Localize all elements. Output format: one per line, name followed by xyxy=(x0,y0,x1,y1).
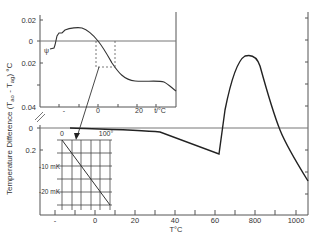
upper-inset-xtick-label: 0 xyxy=(96,107,100,114)
upper-inset-ytick-label: 0 xyxy=(29,37,33,46)
lower-inset-xtick-label: 0 xyxy=(60,130,64,137)
lower-inset-grid xyxy=(57,140,112,210)
upper-inset-ytick-label: 0.04 xyxy=(21,103,36,112)
dta-figure: Temperature Difference (Tao - Tag) °C 0.… xyxy=(0,0,324,240)
upper-inset-annotation: ψ xyxy=(44,47,49,55)
upper-inset-curve xyxy=(50,28,176,91)
main-xtick-label: 1000 xyxy=(288,216,305,225)
lower-inset-ytick-label: -10 mK xyxy=(39,163,61,170)
main-xtick-label: 20 xyxy=(131,216,139,225)
main-xtick-label: - xyxy=(54,216,57,225)
main-xtick-label: 40 xyxy=(171,216,179,225)
main-xtick-label: 60 xyxy=(211,216,219,225)
y-axis-label: Temperature Difference (Tao - Tag) °C xyxy=(5,62,15,195)
main-curve xyxy=(70,55,308,181)
main-plot: 0 0.2 - 0 20 40 60 800 1000 T°C xyxy=(26,12,308,234)
lower-inset-ytick-label: -20 mK xyxy=(39,188,61,195)
lower-inset-xtick-label: 100° xyxy=(99,130,114,137)
upper-inset-ytick-label: 0.02 xyxy=(21,59,36,68)
upper-inset-xtick-label: 20 xyxy=(135,107,143,114)
arrow-head-icon xyxy=(74,133,80,140)
upper-inset-xtick-label: - xyxy=(63,107,66,114)
lower-inset: 0 100° -10 mK -20 mK xyxy=(39,130,113,210)
main-ytick-label: 0 xyxy=(29,124,33,133)
axis-break-mark xyxy=(35,112,43,120)
upper-inset-xlabel: t/°C xyxy=(154,107,166,114)
zoom-connector-line xyxy=(77,67,99,137)
main-xtick-label: 800 xyxy=(249,216,262,225)
main-xticks xyxy=(55,210,296,215)
main-xtick-label: 0 xyxy=(93,216,97,225)
lower-inset-curve xyxy=(62,140,110,205)
axis-break-mark xyxy=(37,114,45,122)
main-xlabel: T°C xyxy=(170,225,184,234)
main-ytick-label: 0.2 xyxy=(26,146,36,155)
upper-inset-ytick-label: 0.02 xyxy=(21,16,36,25)
upper-inset: 0.02 0 0.02 0.04 - 0 20 t/°C ψ xyxy=(21,12,176,114)
